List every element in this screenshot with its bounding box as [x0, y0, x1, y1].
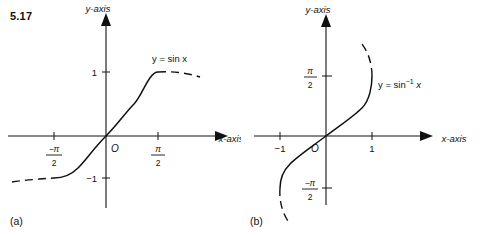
- svg-text:−π: −π: [305, 178, 316, 188]
- x-tick-label-b-neg-one: −1: [275, 143, 286, 154]
- svg-text:2: 2: [52, 158, 57, 168]
- x-axis-a: [8, 131, 228, 141]
- plot-a-svg: y-axis x-axis O −π 2 π 2 1 −1 y = sin x: [0, 0, 241, 235]
- y-tick-label-a-one: 1: [92, 67, 97, 78]
- svg-text:2: 2: [156, 158, 161, 168]
- x-axis-b: [254, 131, 433, 141]
- y-axis-a: [101, 13, 111, 208]
- x-tick-label-a-half-pi: π 2: [151, 144, 165, 168]
- y-tick-label-a-neg-one: −1: [86, 173, 97, 184]
- plot-b-svg: y-axis x-axis O −1 1 π 2 −π 2 y = sin−1 …: [242, 0, 483, 235]
- svg-text:π: π: [155, 144, 161, 154]
- y-axis-label-b: y-axis: [305, 4, 331, 15]
- svg-text:π: π: [307, 66, 313, 76]
- svg-text:2: 2: [308, 80, 313, 90]
- y-tick-label-b-half-pi: π 2: [304, 66, 317, 90]
- x-tick-label-b-one: 1: [369, 143, 374, 154]
- x-axis-label-a: x-axis: [218, 133, 241, 144]
- svg-text:−π: −π: [49, 144, 60, 154]
- curve-sine-dash-left: [12, 178, 54, 182]
- origin-label-a: O: [111, 143, 119, 154]
- svg-text:2: 2: [308, 192, 313, 202]
- curve-arcsine-dash-lower: [280, 188, 288, 221]
- panel-caption-a: (a): [10, 215, 23, 227]
- y-tick-label-b-neg-half-pi: −π 2: [302, 178, 318, 202]
- panel-b-arcsine-graph: y-axis x-axis O −1 1 π 2 −π 2 y = sin−1 …: [242, 0, 483, 235]
- curve-arcsine-dash-upper: [362, 44, 372, 76]
- panel-caption-b: (b): [250, 215, 263, 227]
- panel-a-sine-graph: y-axis x-axis O −π 2 π 2 1 −1 y = sin x: [0, 0, 241, 235]
- x-tick-label-a-neg-half-pi: −π 2: [46, 144, 62, 168]
- curve-sine-dash-right: [158, 72, 200, 77]
- x-axis-label-b: x-axis: [441, 133, 467, 144]
- y-axis-label-a: y-axis: [85, 3, 111, 14]
- origin-label-b: O: [311, 143, 319, 154]
- curve-label-a: y = sin x: [152, 53, 187, 64]
- curve-label-b: y = sin−1 x: [378, 78, 422, 90]
- figure-container: 5.17: [0, 0, 483, 235]
- y-axis-b: [321, 14, 331, 205]
